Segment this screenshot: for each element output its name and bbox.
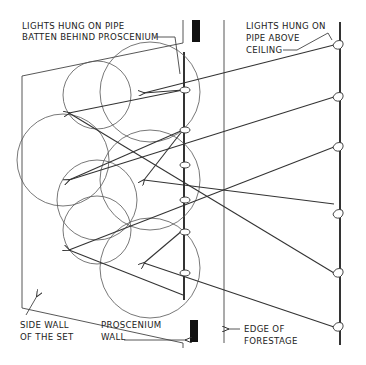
svg-text:EDGE OF: EDGE OF (244, 324, 285, 334)
batten-beams (69, 90, 183, 295)
svg-text:BATTEN BEHIND PROSCENIUM: BATTEN BEHIND PROSCENIUM (22, 32, 159, 42)
label-pipe-above: LIGHTS HUNG ON PIPE ABOVE CEILING (246, 21, 332, 55)
label-forestage: EDGE OF FORESTAGE (228, 324, 298, 346)
svg-text:OF THE SET: OF THE SET (20, 332, 74, 342)
svg-text:PIPE ABOVE: PIPE ABOVE (246, 33, 300, 43)
svg-text:FORESTAGE: FORESTAGE (244, 336, 298, 346)
proscenium-wall-bottom (190, 320, 198, 342)
svg-text:CEILING: CEILING (246, 45, 282, 55)
label-side-wall: SIDE WALL OF THE SET (20, 296, 74, 342)
ceiling-beams (69, 45, 334, 327)
light-pools (17, 42, 200, 318)
label-batten-behind: LIGHTS HUNG ON PIPE BATTEN BEHIND PROSCE… (22, 21, 180, 74)
svg-text:LIGHTS HUNG ON PIPE: LIGHTS HUNG ON PIPE (22, 21, 124, 31)
proscenium-wall-top (192, 20, 200, 42)
svg-text:SIDE WALL: SIDE WALL (20, 320, 69, 330)
stage-lighting-diagram: LIGHTS HUNG ON PIPE BATTEN BEHIND PROSCE… (0, 0, 366, 365)
svg-text:WALL: WALL (101, 332, 126, 342)
ceiling-lights (333, 41, 343, 332)
svg-text:PROSCENIUM: PROSCENIUM (101, 320, 161, 330)
svg-text:LIGHTS HUNG ON: LIGHTS HUNG ON (246, 21, 326, 31)
label-proscenium: PROSCENIUM WALL (101, 320, 186, 342)
